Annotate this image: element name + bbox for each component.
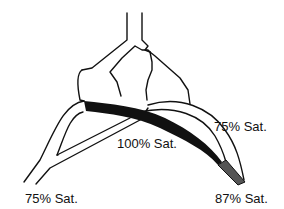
oxygenated-band bbox=[84, 101, 222, 165]
vessel-drawing bbox=[0, 0, 284, 209]
mixed-saturation-label: 87% Sat. bbox=[215, 192, 268, 205]
left-lobe bbox=[78, 70, 84, 101]
trunk-left-wall bbox=[82, 13, 127, 70]
trunk-inner-split bbox=[110, 46, 150, 96]
trunk-right-wall bbox=[142, 13, 190, 104]
left-vessel-outer bbox=[24, 101, 84, 182]
right-vessel-saturation-label: 75% Sat. bbox=[214, 120, 267, 133]
saturation-diagram: 75% Sat. 100% Sat. 75% Sat. 87% Sat. bbox=[0, 0, 284, 209]
trunk-inner-right bbox=[146, 52, 152, 100]
left-vessel-saturation-label: 75% Sat. bbox=[25, 192, 78, 205]
center-vessel-saturation-label: 100% Sat. bbox=[117, 137, 177, 150]
